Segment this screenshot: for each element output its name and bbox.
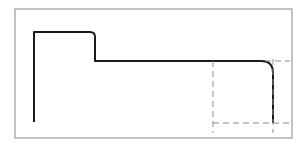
stepped-profile-outline (34, 32, 273, 123)
corner-detail-box (213, 59, 290, 133)
drawing-canvas (0, 0, 307, 146)
profile-diagram (0, 0, 307, 146)
drawing-frame (15, 9, 292, 138)
